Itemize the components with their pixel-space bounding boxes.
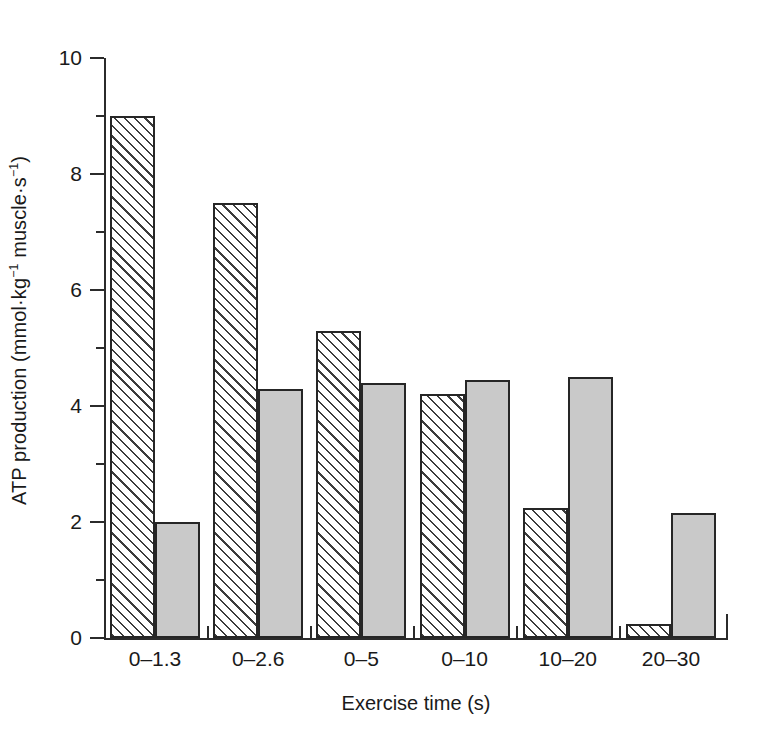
y-axis-tick-minor <box>96 115 104 117</box>
bar-series-gray-0–10 <box>465 380 510 638</box>
x-axis-category-label: 0–10 <box>420 648 510 669</box>
x-axis-tick <box>413 626 415 640</box>
bar-series-hatched-0–5 <box>316 331 361 638</box>
x-axis-line <box>104 638 728 640</box>
bar-series-gray-0–5 <box>361 383 406 638</box>
bar-series-gray-20–30 <box>671 513 716 638</box>
y-axis-tick-label: 2 <box>36 511 82 532</box>
y-axis-label-prefix: ATP production (mmol·kg <box>9 277 31 504</box>
bar-series-gray-0–2.6 <box>258 389 303 638</box>
x-axis-category-label: 20–30 <box>626 648 716 669</box>
y-axis-tick-major <box>90 173 104 175</box>
bar-series-gray-0–1.3 <box>155 522 200 638</box>
y-axis-tick-label: 8 <box>36 163 82 184</box>
y-axis-tick-label: 6 <box>36 279 82 300</box>
y-axis-tick-label: 10 <box>36 47 82 68</box>
y-axis-label-exponent-2: −1 <box>8 162 22 176</box>
bar-series-hatched-10–20 <box>523 508 568 639</box>
y-axis-tick-major <box>90 57 104 59</box>
y-axis-label: ATP production (mmol·kg−1 muscle·s−1) <box>9 155 32 504</box>
bar-series-gray-10–20 <box>568 377 613 638</box>
x-axis-tick <box>207 626 209 640</box>
y-axis-tick-major <box>90 637 104 639</box>
y-axis-tick-minor <box>96 231 104 233</box>
x-axis-category-label: 0–5 <box>316 648 406 669</box>
x-axis-category-label: 0–2.6 <box>213 648 303 669</box>
y-axis-tick-major <box>90 521 104 523</box>
y-axis-tick-label: 0 <box>36 627 82 648</box>
x-axis-category-labels: 0–1.30–2.60–50–1010–2020–30 <box>104 648 728 680</box>
bar-series-hatched-0–2.6 <box>213 203 258 638</box>
y-axis-label-suffix: ) <box>9 155 31 162</box>
y-axis-tick-minor <box>96 347 104 349</box>
bar-series-hatched-0–1.3 <box>110 116 155 638</box>
y-axis-tick-major <box>90 289 104 291</box>
y-axis-tick-minor <box>96 579 104 581</box>
x-axis-end-tick <box>726 614 728 640</box>
y-axis-tick-label: 4 <box>36 395 82 416</box>
x-axis-tick <box>516 626 518 640</box>
y-axis-line <box>104 58 106 638</box>
x-axis-category-label: 0–1.3 <box>110 648 200 669</box>
x-axis-tick <box>310 626 312 640</box>
plot-area: 0246810 <box>104 58 728 638</box>
x-axis-label: Exercise time (s) <box>104 692 728 715</box>
bar-series-hatched-0–10 <box>420 394 465 638</box>
y-axis-tick-labels: 0246810 <box>34 58 82 638</box>
x-axis-category-label: 10–20 <box>523 648 613 669</box>
y-axis-label-exponent-1: −1 <box>8 263 22 277</box>
y-axis-label-middle: muscle·s <box>9 177 31 263</box>
y-axis-tick-minor <box>96 463 104 465</box>
bar-series-hatched-20–30 <box>626 624 671 639</box>
y-axis-tick-major <box>90 405 104 407</box>
atp-production-bar-chart: ATP production (mmol·kg−1 muscle·s−1) 02… <box>0 0 763 738</box>
x-axis-tick <box>619 626 621 640</box>
